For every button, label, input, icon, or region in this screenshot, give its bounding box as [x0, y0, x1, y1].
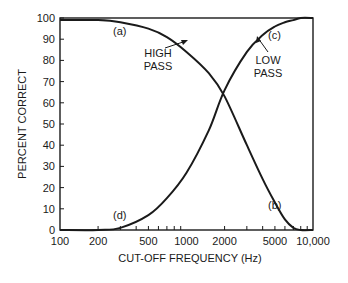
- y-axis-title: PERCENT CORRECT: [16, 69, 28, 179]
- x-tick-label: 5000: [263, 235, 287, 247]
- annotation-low-pass-line1: LOW: [255, 54, 281, 66]
- y-tick-label: 50: [43, 118, 55, 130]
- x-tick-label: 10,000: [296, 235, 330, 247]
- annotation-d: (d): [113, 209, 126, 221]
- x-axis-title: CUT-OFF FREQUENCY (Hz): [118, 252, 261, 264]
- chart: 0102030405060708090100 10020050010002000…: [0, 0, 348, 283]
- y-tick-label: 80: [43, 54, 55, 66]
- annotation-c: (c): [268, 29, 281, 41]
- y-tick-label: 60: [43, 97, 55, 109]
- annotation-a: (a): [113, 25, 126, 37]
- y-tick-label: 100: [37, 12, 55, 24]
- y-tick-label: 70: [43, 76, 55, 88]
- annotation-low-pass-line2: PASS: [254, 67, 283, 79]
- x-tick-label: 500: [139, 235, 157, 247]
- x-tick-label: 1000: [174, 235, 198, 247]
- annotation-high-pass-line1: HIGH: [144, 47, 172, 59]
- y-tick-label: 10: [43, 203, 55, 215]
- y-tick-label: 30: [43, 160, 55, 172]
- x-tick-label: 100: [51, 235, 69, 247]
- x-tick-label: 200: [89, 235, 107, 247]
- annotation-high-pass-line2: PASS: [144, 60, 173, 72]
- high-pass-arrowhead-icon: [181, 40, 188, 45]
- y-tick-label: 40: [43, 139, 55, 151]
- y-tick-label: 90: [43, 33, 55, 45]
- x-tick-label: 2000: [212, 235, 236, 247]
- y-tick-label: 20: [43, 182, 55, 194]
- annotation-b: (b): [268, 199, 281, 211]
